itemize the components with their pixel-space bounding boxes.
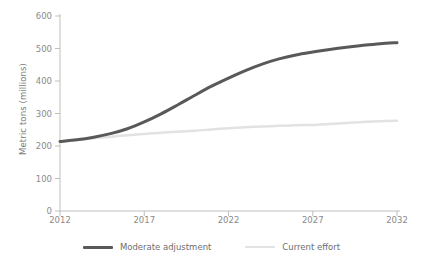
legend-item[interactable]: Current effort: [245, 243, 340, 252]
line-chart: Metric tons (millions) 60050040030020010…: [0, 0, 423, 267]
legend-item[interactable]: Moderate adjustment: [83, 243, 211, 252]
series-line-moderate-adjustment: [60, 43, 397, 142]
chart-legend: Moderate adjustmentCurrent effort: [0, 243, 423, 252]
series-line-current-effort: [60, 121, 397, 142]
plot-area: [0, 0, 423, 267]
legend-label: Moderate adjustment: [120, 243, 211, 252]
legend-swatch-icon: [83, 246, 113, 249]
legend-swatch-icon: [245, 246, 275, 248]
legend-label: Current effort: [282, 243, 340, 252]
